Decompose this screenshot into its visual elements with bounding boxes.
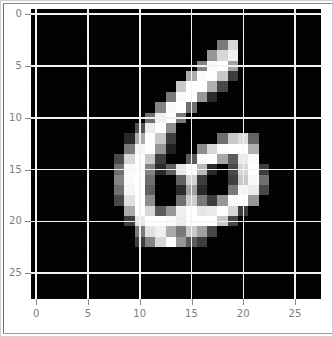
y-tick-label: 20 bbox=[1, 216, 22, 226]
y-tick-label: 15 bbox=[1, 165, 22, 175]
matplotlib-figure: 0510152025 0510152025 bbox=[0, 0, 333, 337]
y-tick-label: 5 bbox=[1, 61, 22, 71]
y-tick-label: 10 bbox=[1, 113, 22, 123]
y-tick-label: 0 bbox=[1, 9, 22, 19]
y-tick-label: 25 bbox=[1, 268, 22, 278]
y-tick-labels: 0510152025 bbox=[1, 1, 333, 337]
